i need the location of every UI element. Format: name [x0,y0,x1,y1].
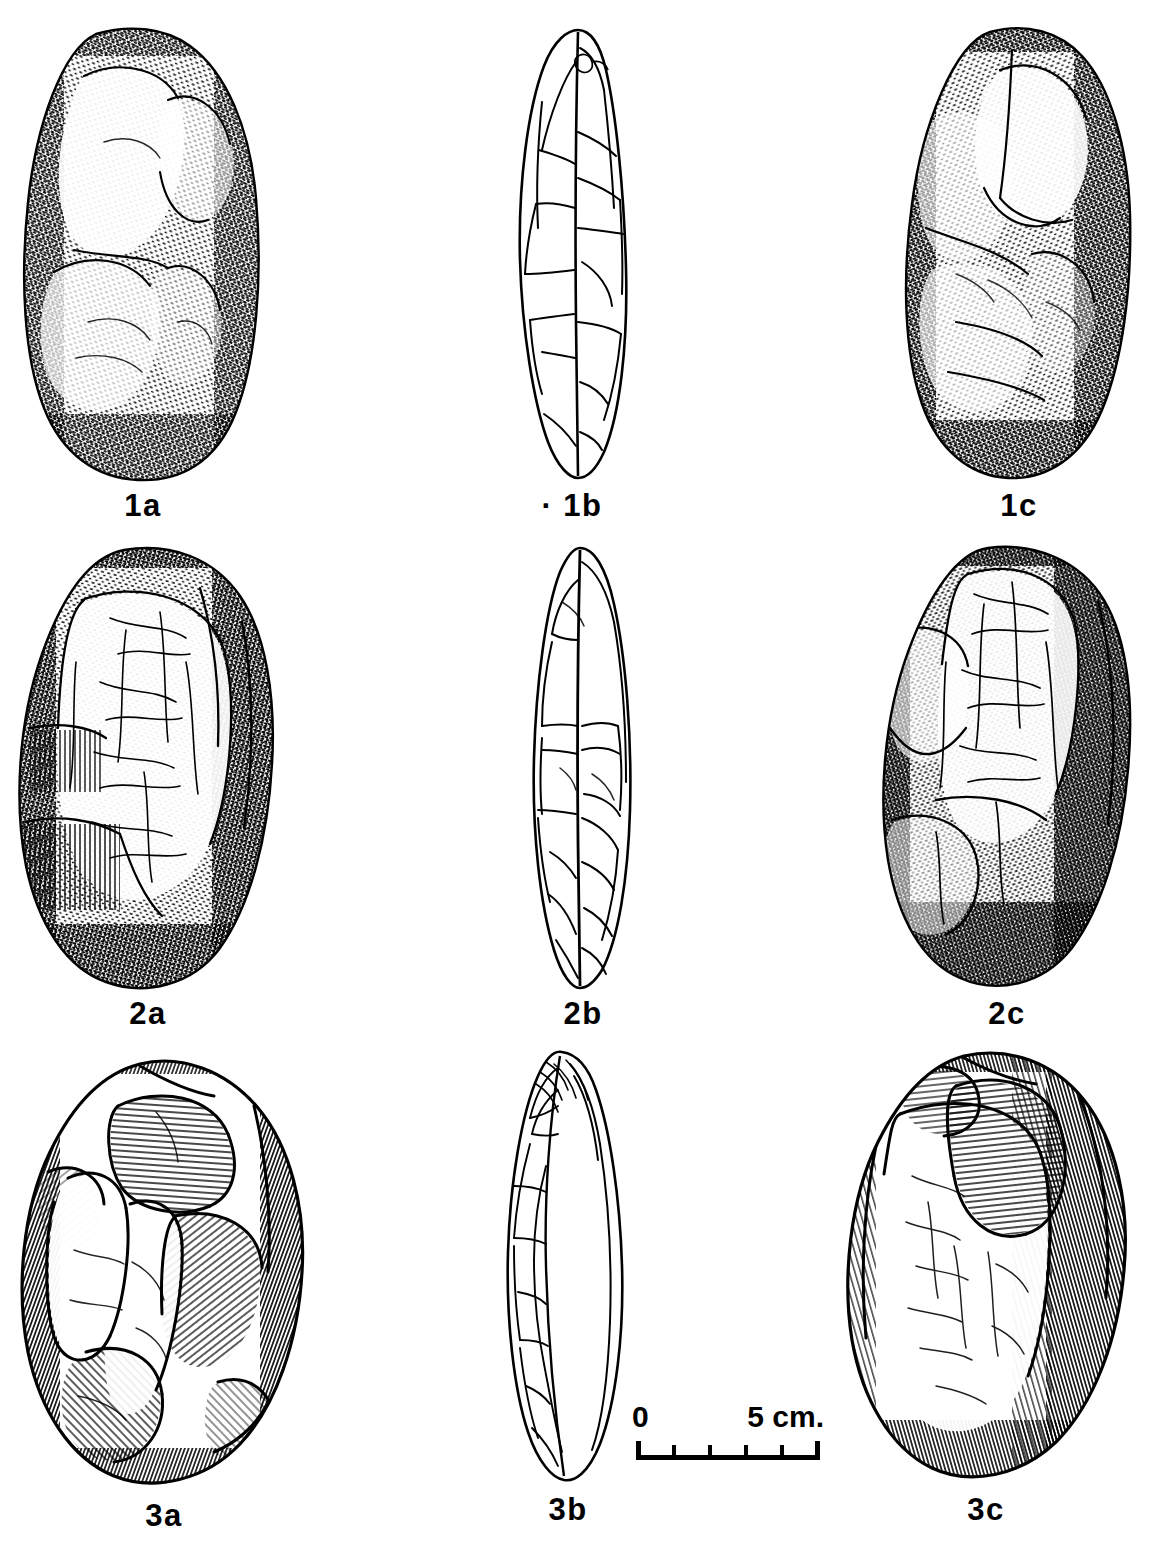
figure-3b: 3b [488,1046,648,1542]
figure-label-2c: 2c [876,998,1138,1029]
figure-2b: 2b [508,542,658,1042]
figure-1c: 1c [896,22,1142,532]
figure-label-2a: 2a [14,998,282,1029]
figure-label-2b: 2b [508,998,658,1029]
artifact-2b-drawing [508,542,658,990]
scale-bar-start-label: 0 [632,1402,649,1432]
figure-label-3a: 3a [14,1500,314,1531]
lithic-illustration-plate: 1a [0,0,1154,1554]
artifact-3c-drawing [836,1046,1136,1486]
figure-1b: · 1b [492,22,652,532]
artifact-2c-drawing [876,542,1138,990]
figure-1a: 1a [18,22,268,532]
artifact-2a-drawing [14,542,282,990]
figure-label-3b: 3b [488,1494,648,1525]
figure-label-1a: 1a [18,490,268,521]
artifact-1b-drawing [492,22,652,484]
artifact-3a-drawing [14,1052,314,1492]
scale-bar-end-label: 5 cm. [747,1402,824,1432]
figure-3a: 3a [14,1052,314,1542]
figure-3c: 3c [836,1046,1136,1542]
figure-label-3c: 3c [836,1494,1136,1525]
scale-bar-rule [632,1440,824,1462]
artifact-1a-drawing [18,22,268,484]
figure-label-1c: 1c [896,490,1142,521]
figure-label-1b: · 1b [492,490,652,521]
scale-bar: 0 5 cm. [632,1402,824,1462]
figure-2c: 2c [876,542,1138,1042]
artifact-3b-drawing [488,1046,648,1486]
figure-2a: 2a [14,542,282,1042]
artifact-1c-drawing [896,22,1142,484]
